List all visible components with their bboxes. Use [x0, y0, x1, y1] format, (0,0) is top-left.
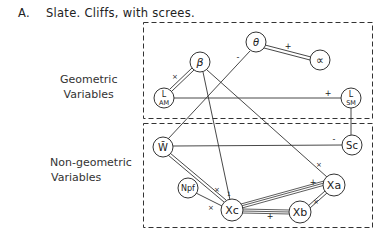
node-npf-label: Npf [181, 184, 195, 193]
node-l-am-sub: AM [159, 99, 169, 107]
sign-xc-xb: + [267, 212, 274, 221]
node-w-label: W̄ [158, 141, 168, 153]
sign-theta-w: - [237, 53, 240, 62]
sign-beta-xa: × [316, 161, 322, 169]
node-xb-label: Xb [293, 206, 308, 219]
sign-lam-lsm: + [325, 89, 332, 98]
sign-w-xc: × [214, 186, 220, 194]
path-diagram: β θ ∝ L AM L SM W̄ Sc Npf Xc Xb Xa + - ×… [0, 0, 391, 235]
sign-xb-xa: × [313, 198, 319, 206]
sign-w-sc: - [333, 135, 336, 144]
sign-beta-xc: 1 [227, 190, 231, 197]
sign-beta-lam: × [172, 73, 178, 81]
node-beta-label: β [195, 56, 203, 69]
edge-beta-xc [203, 72, 230, 200]
node-sc-label: Sc [346, 140, 358, 151]
edge-w-xc [168, 153, 226, 202]
node-alpha-label: ∝ [316, 54, 324, 67]
sign-npf-xc: × [208, 204, 214, 212]
sign-theta-alpha: + [285, 42, 292, 51]
sign-xc-xa: + [310, 178, 317, 187]
node-l-sm-label: L [349, 90, 354, 99]
node-theta-label: θ [253, 37, 259, 48]
node-l-sm-sub: SM [346, 99, 356, 107]
node-xa-label: Xa [327, 179, 341, 192]
node-l-am-label: L [162, 90, 167, 99]
node-xc-label: Xc [225, 204, 239, 217]
edge-w-sc [173, 145, 342, 146]
